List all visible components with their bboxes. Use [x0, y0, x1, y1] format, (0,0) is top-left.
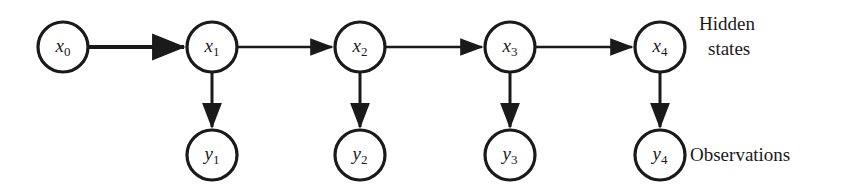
node-y4[interactable]: y4: [635, 130, 685, 180]
emission-edge-group: [212, 73, 660, 127]
node-x2[interactable]: x2: [335, 22, 385, 72]
hmm-diagram: x0 x1 x2 x3 x4 y1: [0, 0, 850, 196]
node-y2[interactable]: y2: [335, 130, 385, 180]
node-x4[interactable]: x4: [635, 22, 685, 72]
node-y3[interactable]: y3: [485, 130, 535, 180]
observation-node-group: y1 y2 y3 y4: [187, 130, 685, 180]
hidden-states-label-line2: states: [699, 37, 755, 62]
hidden-states-label: Hidden states: [699, 12, 755, 61]
node-y1[interactable]: y1: [187, 130, 237, 180]
observations-label: Observations: [690, 143, 790, 168]
hidden-states-label-line1: Hidden: [699, 13, 755, 34]
node-x1[interactable]: x1: [187, 22, 237, 72]
node-x0[interactable]: x0: [38, 22, 88, 72]
node-x3[interactable]: x3: [485, 22, 535, 72]
